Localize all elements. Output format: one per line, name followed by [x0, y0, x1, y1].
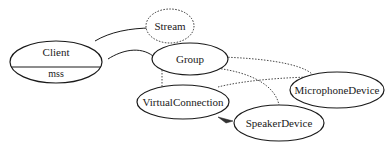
node-stream-label: Stream — [154, 20, 186, 32]
node-speakerdevice-label: SpeakerDevice — [246, 117, 313, 129]
node-group[interactable]: Group — [152, 43, 228, 75]
node-group-label: Group — [176, 53, 205, 65]
node-virtualconnection[interactable]: VirtualConnection — [137, 85, 229, 119]
node-virtualconnection-label: VirtualConnection — [142, 96, 224, 108]
node-microphonedevice-label: MicrophoneDevice — [295, 84, 380, 96]
arrowhead-icon — [218, 117, 233, 123]
node-client-sublabel: mss — [48, 68, 64, 79]
object-diagram: Client mss Stream Group VirtualConnectio… — [0, 0, 390, 151]
edge-client-stream — [95, 28, 152, 41]
node-client[interactable]: Client mss — [10, 41, 102, 83]
node-microphonedevice[interactable]: MicrophoneDevice — [290, 72, 384, 108]
edge-client-group — [108, 50, 153, 59]
node-stream[interactable]: Stream — [146, 9, 194, 43]
node-speakerdevice[interactable]: SpeakerDevice — [234, 105, 324, 141]
node-client-label: Client — [43, 46, 70, 58]
